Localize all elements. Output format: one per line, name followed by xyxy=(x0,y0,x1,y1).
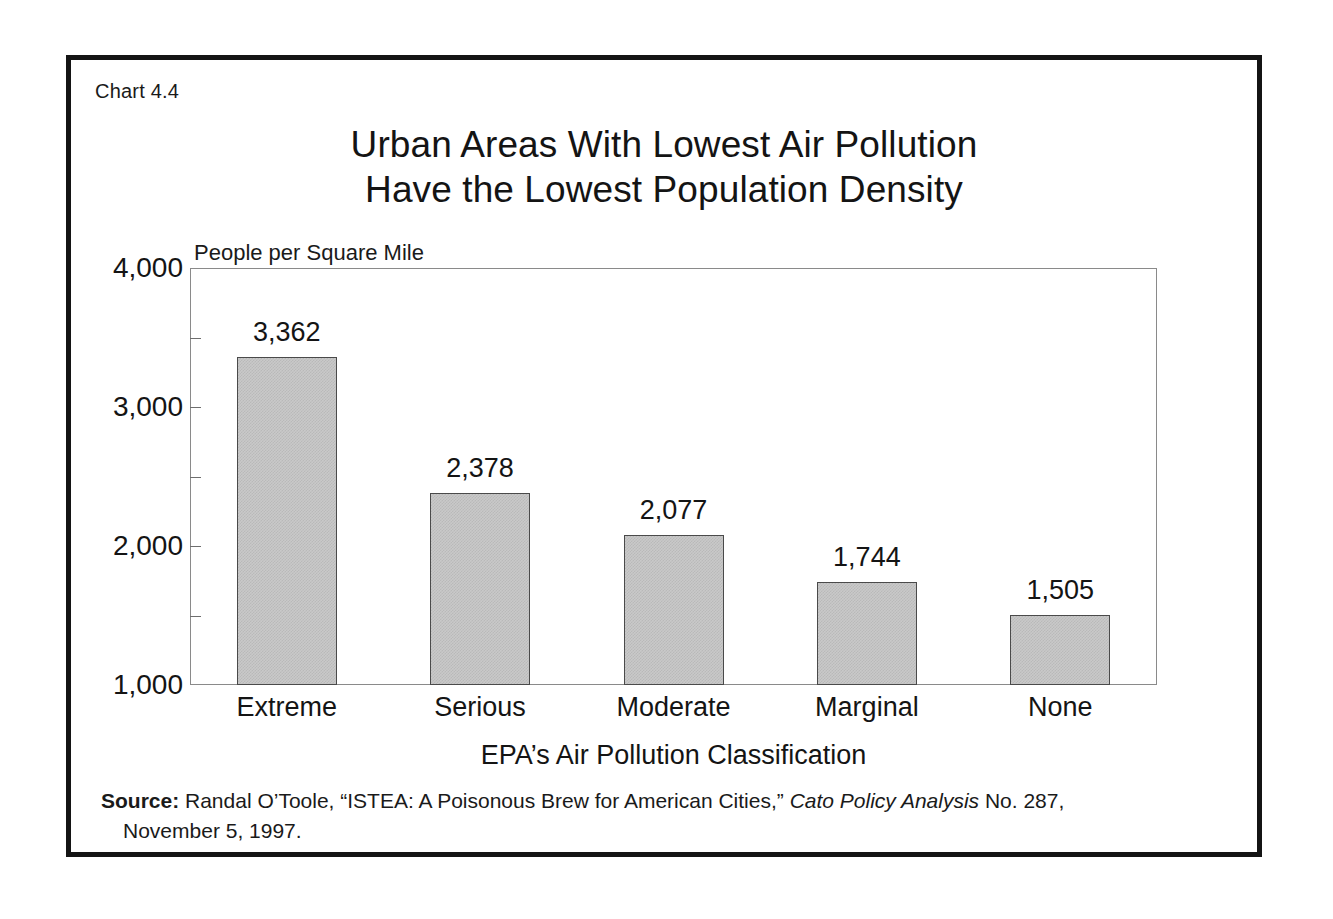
x-tick-label: None xyxy=(1028,692,1093,723)
bar-value-label: 2,378 xyxy=(446,453,514,484)
x-tick-label: Extreme xyxy=(236,692,337,723)
bar-value-label: 2,077 xyxy=(640,495,708,526)
source-publication: Cato Policy Analysis xyxy=(790,789,979,812)
x-tick-label: Moderate xyxy=(616,692,730,723)
bar-column: 3,362 xyxy=(237,268,337,685)
bar-column: 1,744 xyxy=(817,268,917,685)
bar-column: 1,505 xyxy=(1010,268,1110,685)
y-axis-tick-mark xyxy=(190,407,201,408)
bar xyxy=(624,535,724,685)
y-axis-tick-mark xyxy=(190,338,201,339)
bar xyxy=(430,493,530,685)
source-text-before: Randal O’Toole, “ISTEA: A Poisonous Brew… xyxy=(179,789,789,812)
bar-series: 3,3622,3782,0771,7441,505 xyxy=(190,268,1157,685)
bar-column: 2,077 xyxy=(624,268,724,685)
x-tick-label: Serious xyxy=(434,692,526,723)
y-axis-tick-labels: 4,0003,0002,0001,000 xyxy=(71,268,183,685)
chart-page: Chart 4.4 Urban Areas With Lowest Air Po… xyxy=(0,0,1333,919)
x-axis-tick-labels: ExtremeSeriousModerateMarginalNone xyxy=(190,692,1157,732)
bar-column: 2,378 xyxy=(430,268,530,685)
y-axis-tick-mark xyxy=(190,616,201,617)
bar xyxy=(237,357,337,685)
source-line-2: November 5, 1997. xyxy=(101,816,1217,846)
figure-frame: Chart 4.4 Urban Areas With Lowest Air Po… xyxy=(66,55,1262,857)
y-tick-label: 2,000 xyxy=(87,530,183,562)
bar-value-label: 1,505 xyxy=(1027,575,1095,606)
source-note: Source: Randal O’Toole, “ISTEA: A Poison… xyxy=(101,786,1217,846)
y-tick-label: 1,000 xyxy=(87,669,183,701)
y-axis-tick-mark xyxy=(190,546,201,547)
bar xyxy=(1010,615,1110,685)
source-label: Source: xyxy=(101,789,179,812)
bar-value-label: 3,362 xyxy=(253,317,321,348)
bar xyxy=(817,582,917,685)
x-tick-label: Marginal xyxy=(815,692,919,723)
y-tick-label: 4,000 xyxy=(87,252,183,284)
source-text-after: No. 287, xyxy=(979,789,1064,812)
bar-chart: People per Square Mile 4,0003,0002,0001,… xyxy=(71,60,1267,862)
bar-value-label: 1,744 xyxy=(833,542,901,573)
x-axis-label: EPA’s Air Pollution Classification xyxy=(190,740,1157,771)
y-tick-label: 3,000 xyxy=(87,391,183,423)
y-axis-label: People per Square Mile xyxy=(194,240,424,266)
y-axis-tick-mark xyxy=(190,477,201,478)
